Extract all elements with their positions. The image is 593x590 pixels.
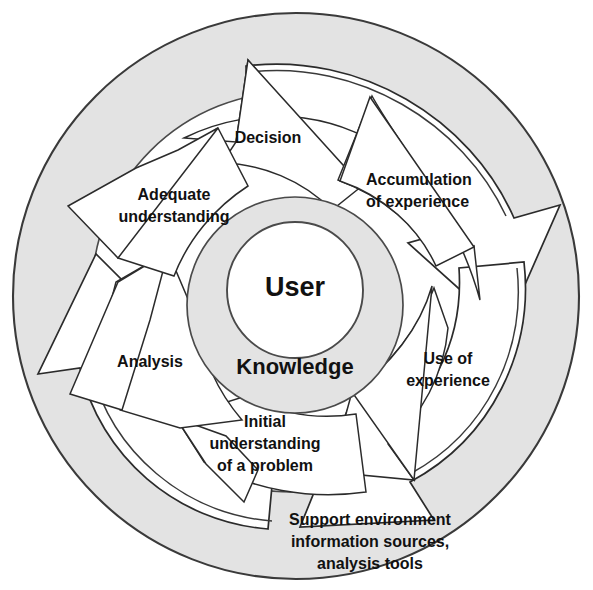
svg-text:Use of: Use of <box>424 350 474 367</box>
stage-label-analysis: Analysis <box>117 353 183 370</box>
svg-text:experience: experience <box>406 372 490 389</box>
knowledge-label: Knowledge <box>236 354 353 379</box>
svg-text:understanding: understanding <box>118 208 229 225</box>
svg-text:of a problem: of a problem <box>217 457 313 474</box>
user-label: User <box>265 272 326 302</box>
outer-band-line-1: Support environment <box>289 511 451 528</box>
svg-text:Initial: Initial <box>244 413 286 430</box>
knowledge-cycle-diagram: User Knowledge Decision Accumulation of … <box>0 0 593 590</box>
svg-text:understanding: understanding <box>209 435 320 452</box>
svg-text:Accumulation: Accumulation <box>366 171 472 188</box>
diagram-canvas: User Knowledge Decision Accumulation of … <box>0 0 593 590</box>
outer-band-line-2: information sources, <box>291 533 449 550</box>
outer-band-line-3: analysis tools <box>317 555 423 572</box>
stage-label-decision: Decision <box>235 129 302 146</box>
svg-text:of experience: of experience <box>366 193 469 210</box>
svg-text:Adequate: Adequate <box>138 186 211 203</box>
